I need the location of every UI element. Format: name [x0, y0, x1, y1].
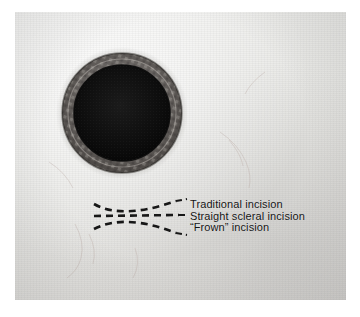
eye-photograph: [15, 12, 346, 300]
label-frown-incision: “Frown” incision: [190, 222, 269, 234]
figure-container: Traditional incision Straight scleral in…: [0, 0, 360, 317]
leader-traditional: [176, 199, 187, 201]
pupil: [74, 65, 170, 161]
incision-line-traditional: [94, 201, 176, 211]
leader-frown: [176, 233, 187, 235]
figure-overlay: [15, 12, 346, 300]
incision-line-frown: [94, 222, 176, 233]
label-traditional-incision: Traditional incision: [190, 199, 283, 211]
incision-line-straight-scleral: [94, 215, 179, 216]
